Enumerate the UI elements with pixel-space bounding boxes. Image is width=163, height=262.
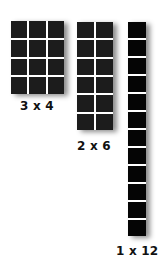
array-cell (128, 184, 146, 200)
array-cell (48, 40, 64, 57)
array-cell (77, 22, 94, 38)
array-cell (128, 112, 146, 128)
array-cell (128, 94, 146, 110)
array-cell (96, 114, 113, 130)
array-cell (96, 77, 113, 93)
array-cell (128, 130, 146, 146)
array-cell (77, 77, 94, 93)
array-cell (128, 220, 146, 236)
array-cell (128, 148, 146, 164)
array-cell (11, 77, 27, 94)
array-3x4-label: 3 x 4 (20, 99, 54, 113)
array-cell (77, 114, 94, 130)
array-cell (128, 58, 146, 74)
array-cell (96, 22, 113, 38)
array-cell (96, 40, 113, 56)
array-cell (128, 22, 146, 38)
array-cell (77, 40, 94, 56)
array-cell (29, 77, 45, 94)
array-1x12-label: 1 x 12 (116, 244, 158, 258)
array-cell (29, 40, 45, 57)
array-cell (128, 76, 146, 92)
array-3x4-grid (11, 21, 64, 94)
array-cell (96, 59, 113, 75)
array-1x12-grid (128, 22, 146, 236)
array-cell (128, 202, 146, 218)
array-cell (48, 59, 64, 76)
array-cell (11, 21, 27, 38)
array-cell (48, 77, 64, 94)
array-cell (48, 21, 64, 38)
array-2x6-label: 2 x 6 (77, 139, 111, 153)
array-cell (77, 59, 94, 75)
array-cell (29, 21, 45, 38)
array-cell (11, 40, 27, 57)
array-cell (96, 95, 113, 111)
array-cell (77, 95, 94, 111)
array-cell (128, 40, 146, 56)
array-cell (11, 59, 27, 76)
array-cell (29, 59, 45, 76)
array-cell (128, 166, 146, 182)
array-2x6-grid (77, 22, 113, 130)
